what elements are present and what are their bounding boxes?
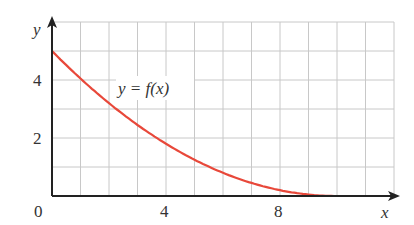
y-tick-2: 2 — [33, 129, 42, 148]
x-axis-label: x — [380, 203, 389, 222]
y-axis-label: y — [31, 20, 41, 39]
curve-annotation: y = f(x) — [116, 79, 169, 98]
curve-f-of-x — [52, 51, 366, 196]
y-tick-4: 4 — [33, 71, 42, 90]
x-tick-4: 4 — [160, 202, 169, 221]
grid — [52, 22, 394, 196]
x-tick-8: 8 — [274, 202, 283, 221]
origin-label: 0 — [34, 202, 43, 221]
function-plot: y x 0 4 8 2 4 y = f(x) — [0, 0, 414, 225]
